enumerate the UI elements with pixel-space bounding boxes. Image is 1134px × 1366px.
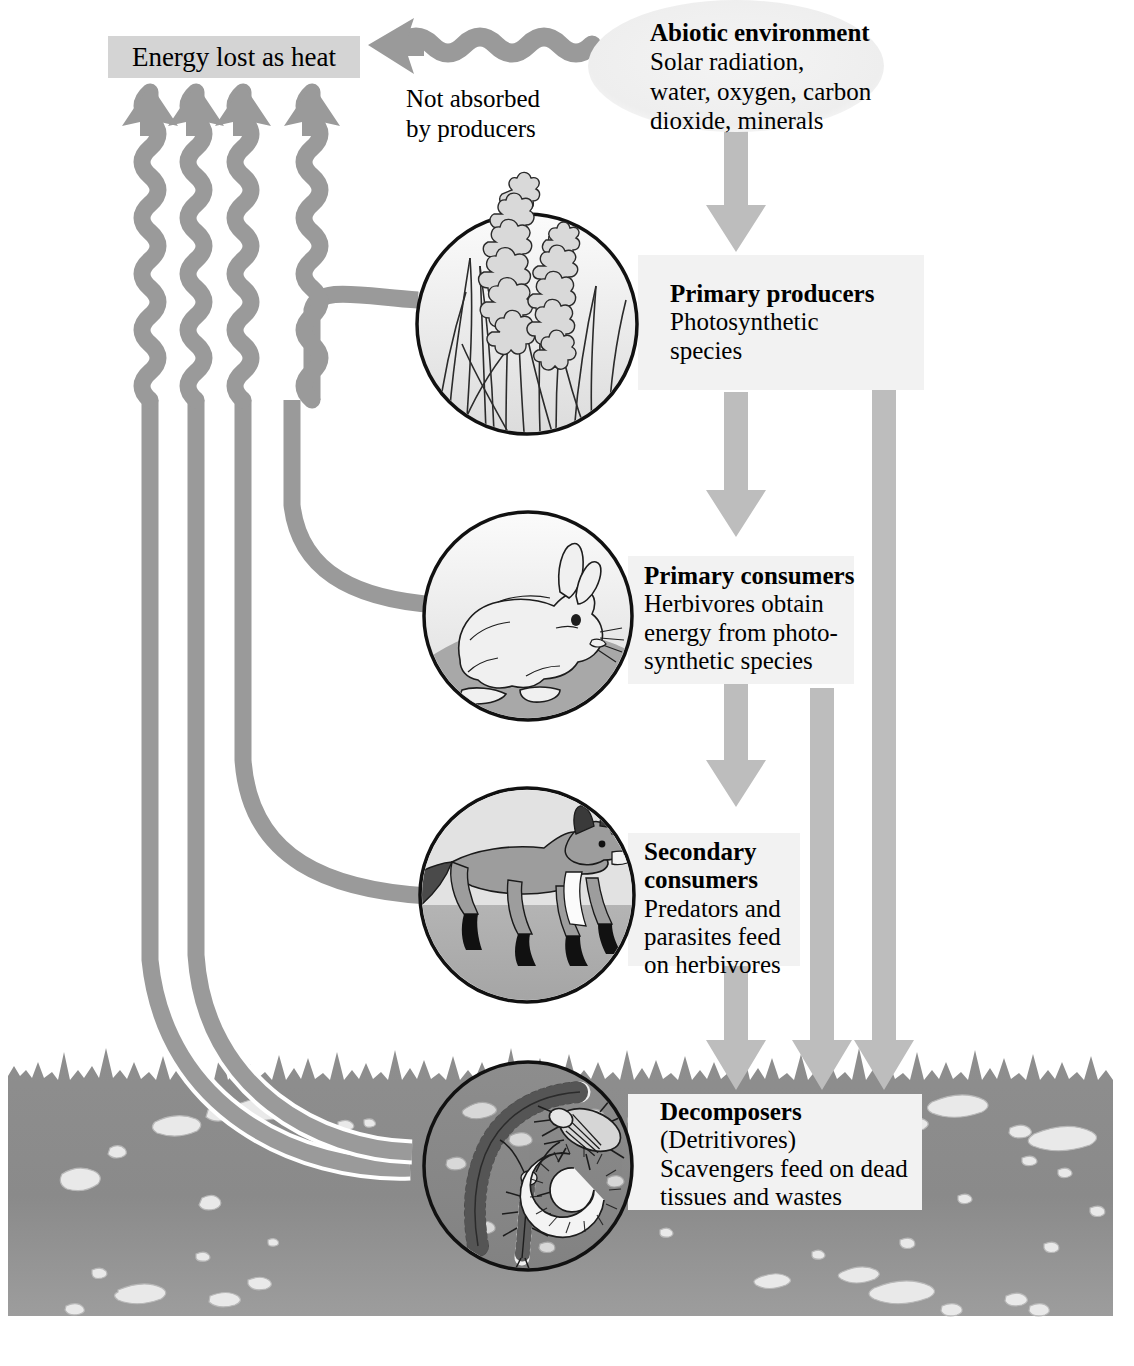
abiotic-title: Abiotic environment — [650, 18, 920, 47]
primary-consumers-text: Primary consumers Herbivores obtain ener… — [644, 562, 894, 675]
secondary-consumers-title-line-2: consumers — [644, 866, 844, 894]
abiotic-ellipse-layer — [0, 0, 1134, 1366]
decomposers-text: Decomposers (Detritivores) Scavengers fe… — [660, 1098, 940, 1211]
not-absorbed-line-2: by producers — [406, 114, 626, 144]
abiotic-line-3: dioxide, minerals — [650, 106, 920, 135]
secondary-consumers-line-1: Predators and — [644, 895, 844, 923]
abiotic-text: Abiotic environment Solar radiation, wat… — [650, 18, 920, 135]
producers-title: Primary producers — [670, 280, 930, 308]
secondary-consumers-title-line-1: Secondary — [644, 838, 844, 866]
primary-consumers-line-3: synthetic species — [644, 647, 894, 675]
diagram-canvas: Energy lost as heat Abiotic environment … — [0, 0, 1134, 1366]
primary-consumers-line-1: Herbivores obtain — [644, 590, 894, 618]
abiotic-line-1: Solar radiation, — [650, 47, 920, 76]
secondary-consumers-line-3: on herbivores — [644, 951, 844, 979]
primary-consumers-title: Primary consumers — [644, 562, 894, 590]
producers-line-2: species — [670, 337, 930, 365]
decomposers-title: Decomposers — [660, 1098, 940, 1126]
secondary-consumers-text: Secondary consumers Predators and parasi… — [644, 838, 844, 979]
energy-lost-as-heat-box: Energy lost as heat — [108, 36, 360, 78]
not-absorbed-line-1: Not absorbed — [406, 84, 626, 114]
energy-lost-as-heat-label: Energy lost as heat — [132, 42, 336, 73]
secondary-consumers-line-2: parasites feed — [644, 923, 844, 951]
primary-consumers-line-2: energy from photo- — [644, 619, 894, 647]
not-absorbed-text: Not absorbed by producers — [406, 84, 626, 144]
decomposers-line-2: Scavengers feed on dead — [660, 1155, 940, 1183]
producers-text: Primary producers Photosynthetic species — [670, 280, 930, 365]
decomposers-line-1: (Detritivores) — [660, 1126, 940, 1154]
producers-line-1: Photosynthetic — [670, 308, 930, 336]
decomposers-line-3: tissues and wastes — [660, 1183, 940, 1211]
abiotic-line-2: water, oxygen, carbon — [650, 77, 920, 106]
